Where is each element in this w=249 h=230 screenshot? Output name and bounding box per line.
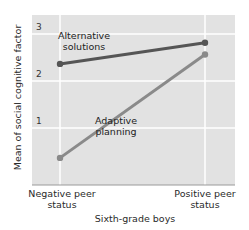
x-category-line: status	[22, 199, 102, 210]
y-tick-label: 3	[36, 22, 42, 32]
x-category-negative: Negative peer status	[22, 188, 102, 210]
data-point	[202, 51, 208, 57]
series-label: planning	[95, 126, 136, 137]
x-category-positive: Positive peer status	[165, 188, 245, 210]
x-category-line: Positive peer	[165, 188, 245, 199]
data-point	[57, 61, 63, 67]
x-category-line: status	[165, 199, 245, 210]
y-tick-label: 2	[36, 69, 42, 79]
series-label: solutions	[63, 41, 106, 52]
data-point	[202, 40, 208, 46]
x-category-line: Negative peer	[22, 188, 102, 199]
y-axis-label: Mean of social cognitive factor	[12, 23, 23, 173]
data-point	[57, 155, 63, 161]
series-label: Alternative	[58, 30, 110, 41]
y-tick-label: 1	[36, 116, 42, 126]
series-label: Adaptive	[95, 115, 137, 126]
x-axis-label: Sixth-grade boys	[60, 213, 210, 224]
